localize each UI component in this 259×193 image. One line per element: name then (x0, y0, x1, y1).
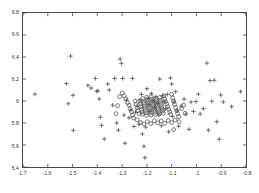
data-point-plus (112, 76, 116, 80)
data-point-plus (99, 123, 103, 127)
data-markers-group (33, 54, 243, 160)
data-point-plus (229, 105, 233, 109)
data-point-plus (182, 97, 186, 101)
x-tick-label: -1 (187, 170, 207, 176)
data-layer (23, 13, 246, 167)
data-point-plus (130, 76, 134, 80)
data-point-plus (66, 102, 70, 106)
y-tick-label: 6.4 (1, 54, 19, 60)
data-point-plus (120, 76, 124, 80)
data-point-plus (97, 97, 101, 101)
data-point-plus (68, 54, 72, 58)
data-point-circle (170, 121, 174, 125)
data-point-plus (219, 93, 223, 97)
data-point-circle (142, 122, 146, 126)
y-tick-label: 6.8 (1, 9, 19, 15)
x-tick-label: -1.6 (37, 170, 57, 176)
data-point-circle (177, 120, 181, 124)
y-tick-label: 5.8 (1, 120, 19, 126)
data-point-plus (215, 120, 219, 124)
data-point-plus (33, 92, 37, 96)
data-point-plus (139, 92, 143, 96)
data-point-circle (172, 128, 176, 132)
data-point-plus (114, 121, 118, 125)
data-point-plus (96, 89, 100, 93)
data-point-plus (102, 137, 106, 141)
data-point-circle (170, 92, 174, 96)
data-point-plus (158, 77, 162, 81)
x-tick-label: -0.9 (212, 170, 232, 176)
data-point-plus (191, 109, 195, 113)
data-point-circle (163, 121, 167, 125)
data-point-circle (120, 91, 124, 95)
data-point-plus (208, 78, 212, 82)
data-point-plus (89, 86, 93, 90)
x-tick-label: -1.7 (12, 170, 32, 176)
x-tick-label: -1.1 (162, 170, 182, 176)
data-point-plus (123, 141, 127, 145)
data-point-plus (210, 99, 214, 103)
data-point-plus (198, 112, 202, 116)
data-point-plus (142, 144, 146, 148)
data-point-plus (122, 113, 126, 117)
data-point-plus (86, 83, 90, 87)
y-tick-label: 5.6 (1, 143, 19, 149)
data-point-plus (194, 99, 198, 103)
data-point-plus (176, 124, 180, 128)
data-point-plus (93, 76, 97, 80)
data-point-circle (116, 104, 120, 108)
data-point-plus (201, 107, 205, 111)
data-point-circle (135, 118, 139, 122)
data-point-plus (132, 124, 136, 128)
data-point-plus (107, 88, 111, 92)
data-point-plus (196, 92, 200, 96)
data-point-plus (145, 87, 149, 91)
x-tick-label: -0.8 (237, 170, 257, 176)
data-point-plus (221, 100, 225, 104)
x-tick-label: -1.4 (87, 170, 107, 176)
data-point-plus (189, 100, 193, 104)
data-point-plus (116, 128, 120, 132)
y-tick-label: 6.2 (1, 76, 19, 82)
data-point-circle (114, 112, 118, 116)
data-point-plus (184, 112, 188, 116)
data-point-circle (173, 118, 177, 122)
data-point-plus (95, 89, 99, 93)
data-point-plus (143, 155, 147, 159)
data-point-plus (169, 82, 173, 86)
plot-area (22, 12, 247, 168)
data-point-plus (111, 103, 115, 107)
data-point-plus (167, 130, 171, 134)
data-point-plus (119, 61, 123, 65)
data-point-circle (182, 103, 186, 107)
data-point-plus (173, 89, 177, 93)
data-point-plus (71, 93, 75, 97)
data-point-plus (64, 81, 68, 85)
tick-marks-group (23, 13, 246, 167)
data-point-plus (187, 127, 191, 131)
data-point-plus (98, 115, 102, 119)
x-tick-label: -1.3 (112, 170, 132, 176)
y-tick-label: 6.6 (1, 31, 19, 37)
data-point-circle (149, 122, 153, 126)
data-point-plus (238, 89, 242, 93)
data-point-circle (169, 112, 173, 116)
data-point-plus (212, 78, 216, 82)
data-point-plus (106, 82, 110, 86)
data-point-plus (118, 57, 122, 61)
data-point-plus (206, 128, 210, 132)
data-point-plus (205, 61, 209, 65)
data-point-plus (140, 132, 144, 136)
x-tick-label: -1.2 (137, 170, 157, 176)
y-tick-label: 6 (1, 98, 19, 104)
x-tick-label: -1.5 (62, 170, 82, 176)
data-point-plus (168, 76, 172, 80)
data-point-plus (217, 137, 221, 141)
data-point-plus (71, 128, 75, 132)
data-point-circle (118, 95, 122, 99)
data-point-circle (144, 114, 148, 118)
scatter-plot-figure: 5.45.65.866.26.46.66.8 -1.7-1.6-1.5-1.4-… (0, 0, 259, 193)
